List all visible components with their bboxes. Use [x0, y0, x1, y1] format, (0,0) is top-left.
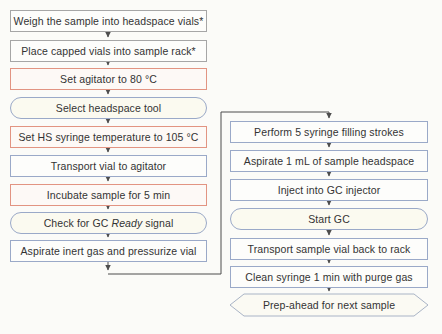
- step-label: Clean syringe 1 min with purge gas: [245, 272, 412, 283]
- step-label: Prep-ahead for next sample: [263, 300, 395, 311]
- step-label: Set HS syringe temperature to 105 °C: [19, 132, 199, 143]
- step-start-gc: Start GC: [230, 208, 428, 230]
- step-label-suffix: signal: [142, 217, 173, 229]
- step-label: Incubate sample for 5 min: [47, 190, 170, 201]
- step-select-headspace-tool: Select headspace tool: [10, 97, 207, 119]
- step-set-agitator-temp: Set agitator to 80 °C: [10, 68, 207, 90]
- step-check-gc-ready: Check for GC Ready signal: [10, 212, 207, 234]
- step-set-hs-syringe-temp: Set HS syringe temperature to 105 °C: [10, 126, 207, 148]
- step-incubate-sample: Incubate sample for 5 min: [10, 184, 207, 206]
- step-prep-ahead-next-sample: Prep-ahead for next sample: [230, 294, 428, 316]
- step-label: Start GC: [308, 214, 350, 225]
- step-label: Set agitator to 80 °C: [60, 74, 157, 85]
- step-aspirate-sample-headspace: Aspirate 1 mL of sample headspace: [230, 150, 428, 172]
- step-label: Place capped vials into sample rack*: [21, 46, 196, 57]
- step-transport-vial-back-rack: Transport sample vial back to rack: [230, 238, 428, 260]
- step-label: Aspirate inert gas and pressurize vial: [21, 246, 197, 257]
- step-clean-syringe: Clean syringe 1 min with purge gas: [230, 266, 428, 288]
- step-label: Transport vial to agitator: [51, 161, 166, 172]
- step-label: Check for GC Ready signal: [44, 218, 174, 229]
- step-transport-vial-agitator: Transport vial to agitator: [10, 155, 207, 177]
- step-label: Perform 5 syringe filling strokes: [254, 127, 404, 138]
- step-inject-gc-injector: Inject into GC injector: [230, 179, 428, 201]
- step-label-italic: Ready: [111, 217, 142, 229]
- step-label: Select headspace tool: [56, 103, 161, 114]
- step-label: Inject into GC injector: [278, 185, 381, 196]
- step-place-vials-rack: Place capped vials into sample rack*: [10, 40, 207, 62]
- step-label-prefix: Check for GC: [44, 217, 112, 229]
- step-label: Aspirate 1 mL of sample headspace: [244, 156, 414, 167]
- flowchart-canvas: Weigh the sample into headspace vials* P…: [0, 0, 442, 334]
- step-aspirate-pressurize-vial: Aspirate inert gas and pressurize vial: [10, 240, 207, 262]
- step-weigh-sample: Weigh the sample into headspace vials*: [10, 10, 207, 32]
- step-label: Weigh the sample into headspace vials*: [14, 16, 204, 27]
- step-syringe-filling-strokes: Perform 5 syringe filling strokes: [230, 121, 428, 143]
- step-label: Transport sample vial back to rack: [248, 244, 411, 255]
